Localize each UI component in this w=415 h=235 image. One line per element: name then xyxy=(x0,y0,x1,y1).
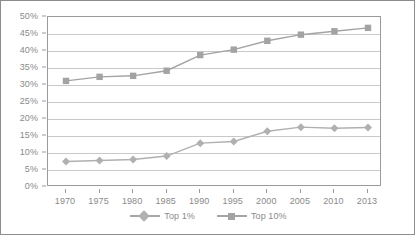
y-axis-tick-mark xyxy=(42,152,46,153)
y-axis-tick-label: 10% xyxy=(20,147,38,157)
x-axis-tick-label: 1990 xyxy=(189,196,209,206)
legend-label: Top 10% xyxy=(251,211,287,221)
y-axis-tick-mark xyxy=(42,118,46,119)
y-axis-tick-mark xyxy=(42,16,46,17)
legend-entry-top-10-percent[interactable]: Top 10% xyxy=(217,210,287,222)
y-axis-tick-mark xyxy=(42,101,46,102)
y-axis-tick-label: 15% xyxy=(20,130,38,140)
series-line xyxy=(66,127,368,161)
data-point-square xyxy=(298,31,304,37)
data-point-square xyxy=(163,68,169,74)
data-point-diamond xyxy=(129,155,137,163)
x-axis-tick-label: 1995 xyxy=(223,196,243,206)
x-axis: 1970197519801985199019952000200520102013 xyxy=(47,189,381,211)
x-axis-tick-label: 1975 xyxy=(88,196,108,206)
x-axis-tick-label: 2010 xyxy=(323,196,343,206)
data-point-square xyxy=(197,52,203,58)
y-axis-tick-label: 35% xyxy=(20,62,38,72)
data-point-diamond xyxy=(62,158,70,166)
plot-area xyxy=(47,16,381,186)
y-axis-tick-mark xyxy=(42,169,46,170)
legend-marker-square-icon xyxy=(217,210,247,222)
data-point-diamond xyxy=(230,137,238,145)
data-point-square xyxy=(231,46,237,52)
data-point-diamond xyxy=(364,124,372,132)
chart-container: 0%5%10%15%20%25%30%35%40%45%50% 19701975… xyxy=(0,0,415,235)
y-axis-tick-label: 25% xyxy=(20,96,38,106)
x-axis-tick-label: 2000 xyxy=(256,196,276,206)
data-point-square xyxy=(63,78,69,84)
series-top-1 xyxy=(62,123,372,165)
y-axis-tick-mark xyxy=(42,50,46,51)
x-axis-tick-label: 2005 xyxy=(290,196,310,206)
data-point-diamond xyxy=(297,123,305,131)
data-point-diamond xyxy=(263,127,271,135)
legend-label: Top 1% xyxy=(164,211,195,221)
data-point-square xyxy=(365,25,371,31)
y-axis-tick-label: 40% xyxy=(20,45,38,55)
x-axis-tick-label: 1980 xyxy=(122,196,142,206)
data-point-diamond xyxy=(196,139,204,147)
y-axis-tick-mark xyxy=(42,135,46,136)
x-axis-tick-label: 2013 xyxy=(357,196,377,206)
x-axis-tick-label: 1985 xyxy=(155,196,175,206)
x-axis-tick-mark xyxy=(333,189,334,193)
x-axis-tick-mark xyxy=(199,189,200,193)
y-axis-tick-label: 0% xyxy=(25,181,38,191)
y-axis-tick-mark xyxy=(42,84,46,85)
x-axis-tick-label: 1970 xyxy=(55,196,75,206)
y-axis-tick-mark xyxy=(42,67,46,68)
data-point-square xyxy=(96,74,102,80)
series-layer xyxy=(48,17,382,187)
y-axis-tick-mark xyxy=(42,186,46,187)
x-axis-tick-mark xyxy=(233,189,234,193)
y-axis-tick-label: 30% xyxy=(20,79,38,89)
series-line xyxy=(66,28,368,81)
x-axis-tick-mark xyxy=(65,189,66,193)
y-axis-tick-label: 45% xyxy=(20,28,38,38)
data-point-square xyxy=(331,28,337,34)
x-axis-tick-mark xyxy=(266,189,267,193)
chart-legend: Top 1% Top 10% xyxy=(1,210,415,222)
x-axis-tick-mark xyxy=(300,189,301,193)
data-point-square xyxy=(130,73,136,79)
data-point-diamond xyxy=(163,152,171,160)
x-axis-tick-mark xyxy=(99,189,100,193)
x-axis-tick-mark xyxy=(367,189,368,193)
y-axis-tick-mark xyxy=(42,33,46,34)
series-top-10 xyxy=(63,25,371,84)
y-axis: 0%5%10%15%20%25%30%35%40%45%50% xyxy=(1,1,45,201)
data-point-diamond xyxy=(330,124,338,132)
x-axis-tick-mark xyxy=(166,189,167,193)
legend-marker-diamond-icon xyxy=(130,210,160,222)
x-axis-tick-mark xyxy=(132,189,133,193)
legend-entry-top-1-percent[interactable]: Top 1% xyxy=(130,210,195,222)
y-axis-tick-label: 20% xyxy=(20,113,38,123)
data-point-square xyxy=(264,38,270,44)
data-point-diamond xyxy=(96,156,104,164)
y-axis-tick-label: 5% xyxy=(25,164,38,174)
y-axis-tick-label: 50% xyxy=(20,11,38,21)
